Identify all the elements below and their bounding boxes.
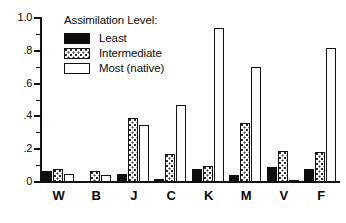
bar-C-most — [176, 105, 186, 182]
x-axis-tick-label-F: F — [306, 188, 336, 203]
bar-W-intermediate — [53, 169, 63, 182]
x-axis-tick-label-W: W — [44, 188, 74, 203]
legend: Assimilation Level: Least Intermediate M… — [64, 14, 164, 77]
legend-label-least: Least — [99, 32, 127, 44]
bar-B-intermediate — [90, 171, 100, 182]
y-axis-tick-label: 1.0 — [0, 12, 32, 23]
bar-F-least — [304, 169, 314, 182]
bar-C-least — [154, 179, 164, 182]
y-axis-tick-label: .6 — [0, 78, 32, 89]
bar-K-intermediate — [203, 166, 213, 182]
bar-W-least — [42, 171, 52, 182]
x-axis-tick-label-J: J — [119, 188, 149, 203]
x-axis-tick-label-K: K — [194, 188, 224, 203]
y-axis-tick-label: .2 — [0, 143, 32, 154]
legend-title: Assimilation Level: — [64, 14, 164, 26]
legend-label-intermediate: Intermediate — [99, 47, 162, 59]
legend-item-intermediate: Intermediate — [64, 47, 164, 59]
legend-label-most: Most (native) — [99, 62, 164, 74]
x-axis-tick-label-C: C — [156, 188, 186, 203]
y-axis-tick-label: .4 — [0, 110, 32, 121]
legend-item-least: Least — [64, 32, 164, 44]
bar-J-intermediate — [128, 118, 138, 182]
bar-chart: 0.2.4.6.81.0 WBJCKMVF Assimilation Level… — [0, 0, 346, 223]
bar-W-most — [64, 174, 74, 182]
bar-K-least — [192, 169, 202, 182]
bar-J-most — [139, 125, 149, 182]
bar-J-least — [117, 174, 127, 182]
legend-item-most: Most (native) — [64, 62, 164, 74]
x-axis-tick-label-M: M — [231, 188, 261, 203]
x-axis-tick-label-B: B — [81, 188, 111, 203]
bar-M-least — [229, 175, 239, 182]
bar-B-most — [101, 175, 111, 182]
bar-F-intermediate — [315, 152, 325, 182]
bar-V-intermediate — [278, 151, 288, 182]
bar-V-most — [289, 180, 299, 182]
y-axis-tick-label: 0 — [0, 176, 32, 187]
bar-K-most — [214, 28, 224, 182]
bar-M-most — [251, 67, 261, 182]
legend-swatch-most-icon — [64, 63, 90, 74]
bar-M-intermediate — [240, 123, 250, 182]
legend-swatch-intermediate-icon — [64, 48, 90, 59]
legend-swatch-least-icon — [64, 33, 90, 44]
x-axis-tick-label-V: V — [269, 188, 299, 203]
bar-C-intermediate — [165, 154, 175, 182]
y-axis-tick-label: .8 — [0, 45, 32, 56]
bar-F-most — [326, 48, 336, 182]
bar-V-least — [267, 167, 277, 182]
